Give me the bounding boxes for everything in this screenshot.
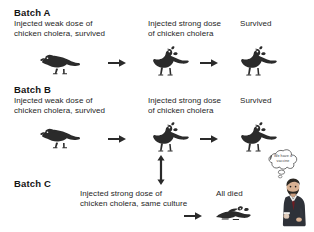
batch-a-chicken-2: [146, 46, 190, 78]
batch-b-chicken-2: [146, 122, 190, 154]
batch-a-step-2-caption: Injected strong dose of chicken cholera: [148, 19, 230, 39]
scientist-figure-icon: [276, 178, 314, 232]
batch-label-b: Batch B: [14, 84, 51, 95]
batch-b-step-2-caption: Injected strong dose of chicken cholera: [148, 96, 230, 116]
batch-a-chicken-1: [36, 48, 84, 76]
batch-a-step-1-caption: Injected weak dose of chicken cholera, s…: [14, 19, 149, 39]
batch-c-chicken-dead: [212, 200, 258, 224]
vertical-link-arrow-icon: [155, 155, 167, 189]
thought-bubble-text: We have a vaccine: [265, 154, 301, 163]
batch-a-chicken-3: [234, 46, 278, 78]
batch-b-arrow-1-icon: [108, 131, 126, 149]
diagram-canvas: Batch A Injected weak dose of chicken ch…: [0, 0, 314, 232]
batch-label-a: Batch A: [14, 7, 51, 18]
batch-c-arrow-1-icon: [184, 208, 202, 226]
batch-c-step-1-caption: Injected strong dose of chicken cholera,…: [80, 189, 212, 209]
batch-label-c: Batch C: [14, 178, 51, 189]
batch-b-step-3-caption: Survived: [240, 96, 300, 106]
batch-b-chicken-1: [36, 122, 84, 150]
batch-c-step-2-caption: All died: [216, 189, 260, 199]
batch-a-arrow-1-icon: [108, 55, 126, 73]
thought-bubble-icon: We have a vaccine: [258, 149, 308, 179]
batch-a-arrow-2-icon: [200, 55, 218, 73]
batch-a-step-3-caption: Survived: [240, 19, 300, 29]
batch-b-step-1-caption: Injected weak dose of chicken cholera, s…: [14, 96, 149, 116]
batch-b-arrow-2-icon: [200, 131, 218, 149]
